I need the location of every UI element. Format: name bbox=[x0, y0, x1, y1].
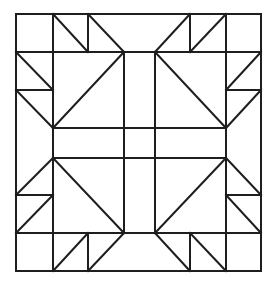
segment-d-right-top-1 bbox=[226, 52, 261, 90]
segment-d-right-top-2 bbox=[226, 90, 261, 128]
segment-d-big-top-left bbox=[53, 52, 124, 128]
segment-d-top-right-2 bbox=[190, 14, 226, 52]
segment-d-right-bot-1 bbox=[226, 158, 261, 195]
segment-d-top-right-1 bbox=[155, 14, 190, 52]
segment-d-bot-right-2 bbox=[190, 233, 226, 271]
segment-d-big-bot-right bbox=[155, 158, 226, 233]
segment-d-left-bot-1 bbox=[16, 158, 53, 195]
segment-d-right-bot-2 bbox=[226, 195, 261, 233]
segment-d-top-left-2 bbox=[88, 14, 124, 52]
pattern-lines bbox=[16, 14, 261, 271]
segment-d-left-top-2 bbox=[16, 90, 53, 128]
segment-d-left-top-1 bbox=[16, 52, 53, 90]
segment-d-bot-right-1 bbox=[155, 233, 190, 271]
quilt-block-drawing bbox=[0, 0, 279, 286]
segment-d-bot-left-2 bbox=[88, 233, 124, 271]
segment-d-bot-left-1 bbox=[53, 233, 88, 271]
quilt-diagram-canvas bbox=[0, 0, 279, 286]
segment-d-big-bot-left bbox=[53, 158, 124, 233]
segment-d-left-bot-2 bbox=[16, 195, 53, 233]
segment-d-top-left-1 bbox=[53, 14, 88, 52]
segment-d-big-top-right bbox=[155, 52, 226, 128]
